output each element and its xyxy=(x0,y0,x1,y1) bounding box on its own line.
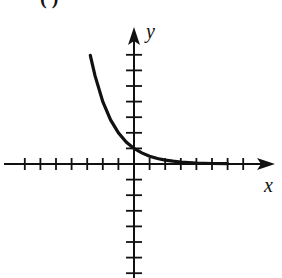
y-axis-label: y xyxy=(144,20,155,43)
x-axis-label: x xyxy=(263,174,273,196)
graph: ( ) y x xyxy=(0,0,282,278)
function-curve xyxy=(90,55,227,163)
panel-label: ( ) xyxy=(40,0,58,9)
